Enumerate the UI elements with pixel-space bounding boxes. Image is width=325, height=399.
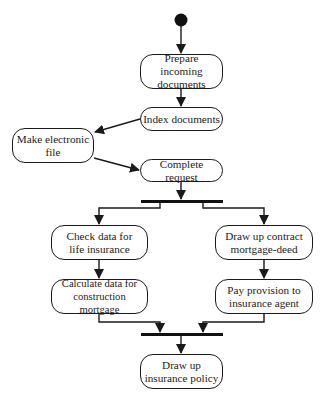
- activity-draw-up-insurance-policy: Draw up insurance policy: [140, 354, 223, 389]
- activity-calculate-data-construction-mortgage: Calculate data for construction mortgage: [51, 279, 148, 314]
- activity-complete-request: Complete request: [140, 159, 223, 182]
- activity-check-data-life-insurance: Check data for life insurance: [51, 225, 148, 260]
- edge-provision-join: [203, 314, 264, 332]
- activity-index-documents: Index documents: [140, 107, 223, 131]
- activity-pay-provision: Pay provision to insurance agent: [215, 279, 313, 314]
- activity-draw-up-contract: Draw up contract mortgage-deed: [215, 225, 313, 260]
- start-node: [175, 14, 188, 27]
- edge-index-electronic: [95, 119, 140, 132]
- activity-make-electronic-file: Make electronic file: [12, 128, 94, 163]
- fork-bar: [141, 200, 223, 203]
- edge-fork-check: [99, 202, 160, 224]
- edge-calculate-join: [99, 314, 160, 332]
- join-bar: [141, 333, 223, 336]
- activity-prepare-incoming-documents: Prepare incoming documents: [140, 54, 223, 89]
- edge-electronic-complete: [94, 158, 139, 170]
- edge-fork-contract: [203, 202, 264, 224]
